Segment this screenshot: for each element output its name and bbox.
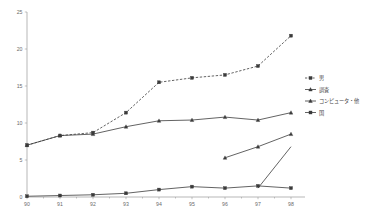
data-point-marker [309, 111, 312, 114]
data-point-marker [125, 111, 128, 114]
data-point-marker [158, 81, 161, 84]
data-point-marker [191, 185, 194, 188]
y-tick-label: 20 [17, 46, 23, 52]
data-point-marker [191, 76, 194, 79]
y-tick-label: 10 [17, 120, 23, 126]
data-point-marker [290, 34, 293, 37]
data-point-marker [309, 77, 312, 80]
y-tick-label: 5 [20, 157, 23, 163]
x-tick-label: 95 [189, 201, 195, 207]
data-point-marker [290, 187, 293, 190]
data-point-marker [59, 194, 62, 197]
line-chart: 0510152025 909192939495969798 男調査コンピュータ・… [0, 0, 372, 217]
data-point-marker [92, 193, 95, 196]
data-point-marker [257, 65, 260, 68]
data-point-marker [125, 192, 128, 195]
x-tick-label: 96 [222, 201, 228, 207]
chart-background [0, 0, 372, 217]
x-tick-label: 97 [255, 201, 261, 207]
data-point-marker [224, 187, 227, 190]
chart-canvas: 0510152025 909192939495969798 男調査コンピュータ・… [0, 0, 372, 217]
legend-label: 国 [319, 110, 324, 117]
legend-label: 男 [319, 75, 324, 82]
x-tick-label: 98 [288, 201, 294, 207]
legend-label: コンピュータ・他 [319, 97, 359, 105]
x-tick-label: 93 [123, 201, 129, 207]
data-point-marker [224, 73, 227, 76]
x-tick-label: 91 [57, 201, 63, 207]
data-point-marker [158, 188, 161, 191]
x-tick-label: 92 [90, 201, 96, 207]
data-point-marker [26, 195, 29, 198]
legend-label: 調査 [319, 86, 329, 94]
y-tick-label: 0 [20, 194, 23, 200]
x-tick-label: 90 [24, 201, 30, 207]
y-tick-label: 15 [17, 83, 23, 89]
y-tick-label: 25 [17, 9, 23, 15]
x-tick-label: 94 [156, 201, 162, 207]
